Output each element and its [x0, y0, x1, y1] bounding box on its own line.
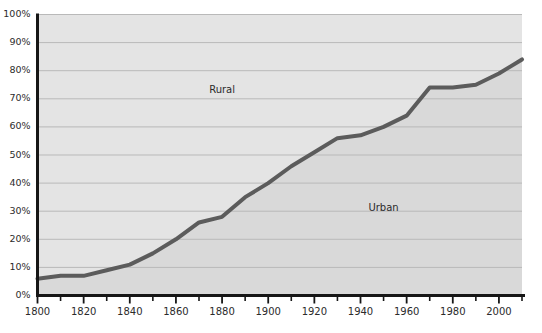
y-axis-label-20pct: 20%: [9, 233, 30, 244]
y-axis-label-90pct: 90%: [9, 36, 30, 47]
x-axis-label-1800: 1800: [25, 306, 50, 317]
y-axis-label-10pct: 10%: [9, 261, 30, 272]
y-axis-label-80pct: 80%: [9, 64, 30, 75]
chart-canvas: 0%10%20%30%40%50%60%70%80%90%100%1800182…: [0, 0, 542, 333]
urbanization-area-chart: 0%10%20%30%40%50%60%70%80%90%100%1800182…: [0, 0, 542, 333]
y-axis-label-40pct: 40%: [9, 177, 30, 188]
x-axis-label-1900: 1900: [255, 306, 280, 317]
x-axis-label-1840: 1840: [117, 306, 142, 317]
region-annotation-rural: Rural: [209, 84, 235, 95]
x-axis-label-1820: 1820: [71, 306, 96, 317]
y-axis-label-0pct: 0%: [15, 289, 30, 300]
x-axis-label-1980: 1980: [440, 306, 465, 317]
y-axis-label-50pct: 50%: [9, 149, 30, 160]
y-axis-label-100pct: 100%: [3, 8, 30, 19]
y-axis-label-60pct: 60%: [9, 120, 30, 131]
x-axis-label-1920: 1920: [302, 306, 327, 317]
x-axis-label-1960: 1960: [394, 306, 419, 317]
x-axis-label-1880: 1880: [209, 306, 234, 317]
region-annotation-urban: Urban: [368, 202, 398, 213]
y-axis-label-70pct: 70%: [9, 92, 30, 103]
y-axis-label-30pct: 30%: [9, 205, 30, 216]
x-axis-label-1940: 1940: [348, 306, 373, 317]
x-axis-label-2000: 2000: [486, 306, 511, 317]
x-axis-label-1860: 1860: [163, 306, 188, 317]
